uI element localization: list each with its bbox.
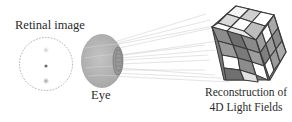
reconstruction-label-line1: Reconstruction of bbox=[205, 87, 287, 99]
eye-label: Eye bbox=[91, 89, 110, 102]
spot-top bbox=[43, 47, 49, 53]
retinal-image-label: Retinal image bbox=[15, 19, 85, 32]
rubiks-cube bbox=[212, 6, 286, 82]
spot-middle bbox=[44, 64, 47, 67]
retinal-image bbox=[20, 38, 73, 91]
spot-bottom bbox=[43, 78, 50, 85]
reconstruction-label: Reconstruction of 4D Light Fields bbox=[205, 87, 287, 116]
eye bbox=[81, 34, 123, 88]
reconstruction-label-line2: 4D Light Fields bbox=[205, 102, 287, 114]
